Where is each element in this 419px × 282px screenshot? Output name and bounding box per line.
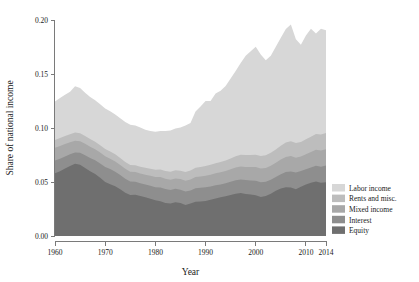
x-tick-label: 2010 xyxy=(298,248,313,257)
x-tick-label: 2000 xyxy=(248,248,263,257)
legend-label-rents-and-misc: Rents and misc. xyxy=(349,194,397,203)
x-tick-label: 1980 xyxy=(148,248,163,257)
legend-swatch-rents-and-misc xyxy=(332,195,345,203)
y-tick-label: 0.20 xyxy=(35,16,48,25)
x-tick-label: 2014 xyxy=(319,248,334,257)
stacked-area-chart: 0.000.050.100.150.20 1960197019801990200… xyxy=(0,0,419,282)
legend-label-mixed-income: Mixed income xyxy=(349,205,393,214)
legend-swatch-equity xyxy=(332,226,345,234)
y-tick-label: 0.00 xyxy=(35,232,48,241)
legend-label-equity: Equity xyxy=(349,226,369,235)
legend-swatch-interest xyxy=(332,216,345,224)
y-axis-title: Share of national income xyxy=(5,80,15,175)
y-tick-label: 0.15 xyxy=(35,70,48,79)
x-tick-label: 1990 xyxy=(198,248,213,257)
legend-swatch-labor-income xyxy=(332,184,345,192)
legend-swatch-mixed-income xyxy=(332,205,345,213)
x-tick-label: 1960 xyxy=(48,248,63,257)
legend-label-interest: Interest xyxy=(349,216,372,225)
y-tick-label: 0.05 xyxy=(35,178,48,187)
x-axis-title: Year xyxy=(182,267,200,277)
figure-container: 0.000.050.100.150.20 1960197019801990200… xyxy=(0,0,419,282)
y-tick-group: 0.000.050.100.150.20 xyxy=(35,16,55,241)
legend: Labor incomeRents and misc.Mixed incomeI… xyxy=(332,184,397,235)
y-tick-label: 0.10 xyxy=(35,124,48,133)
x-tick-label: 1970 xyxy=(98,248,113,257)
area-series-group xyxy=(55,25,326,236)
x-tick-group: 1960197019801990200020102014 xyxy=(48,242,334,258)
legend-label-labor-income: Labor income xyxy=(349,184,392,193)
